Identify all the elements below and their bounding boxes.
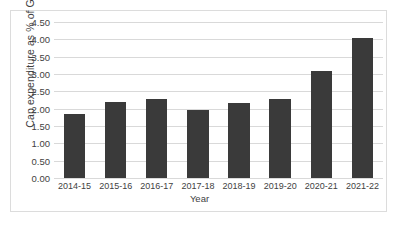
x-axis-tick-label: 2019-20 [264,181,297,191]
y-axis-tick-label: 4.50 [32,17,51,28]
x-axis-tick-label: 2016-17 [140,181,173,191]
bar [311,71,332,178]
bar [64,114,85,178]
x-axis-tick-label: 2015-16 [99,181,132,191]
y-axis-tick-label: 0.50 [32,155,51,166]
bar [269,99,290,178]
bar [187,110,208,178]
bars-layer [54,22,383,178]
y-axis-tick-label: 0.00 [32,173,51,184]
x-axis-tick-label: 2020-21 [305,181,338,191]
x-axis-tick-label: 2017-18 [181,181,214,191]
x-axis-tick-label: 2018-19 [223,181,256,191]
chart-container: Cap expenditure as % of GDP 0.000.501.00… [10,10,387,212]
plot-area: 0.000.501.001.502.002.503.003.504.004.50… [54,22,383,178]
y-axis-tick-label: 2.00 [32,103,51,114]
x-axis-tick-label: 2021-22 [346,181,379,191]
y-axis-tick-label: 4.00 [32,34,51,45]
y-axis-tick-label: 2.50 [32,86,51,97]
y-axis-tick-label: 1.50 [32,121,51,132]
y-axis-tick-label: 3.00 [32,69,51,80]
y-axis-tick-label: 3.50 [32,51,51,62]
x-axis-tick-label: 2014-15 [58,181,91,191]
bar [146,99,167,178]
bar [228,103,249,178]
y-axis-tick-label: 1.00 [32,138,51,149]
bar [105,102,126,178]
gridline [54,178,383,179]
x-axis-title: Year [11,193,388,204]
bar [352,38,373,178]
